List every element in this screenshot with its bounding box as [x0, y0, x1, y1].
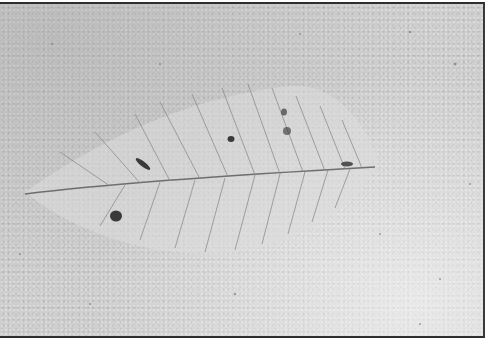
leaf-illustration: [0, 4, 485, 338]
fossil-leaf-photo: [0, 2, 485, 338]
